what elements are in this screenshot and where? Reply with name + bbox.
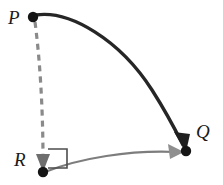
point-label-p: P [8,8,20,27]
point-dot-Q [181,146,191,156]
point-dot-P [28,12,38,22]
geometry-figure: P R Q [0,0,223,185]
solid-curve-p-to-q [36,14,183,145]
point-label-q: Q [196,122,210,141]
point-label-r: R [14,150,26,169]
point-dot-R [38,167,48,177]
dashed-line-p-to-r [35,22,43,160]
figure-canvas [0,0,223,185]
gray-curve-r-to-q [45,152,176,172]
